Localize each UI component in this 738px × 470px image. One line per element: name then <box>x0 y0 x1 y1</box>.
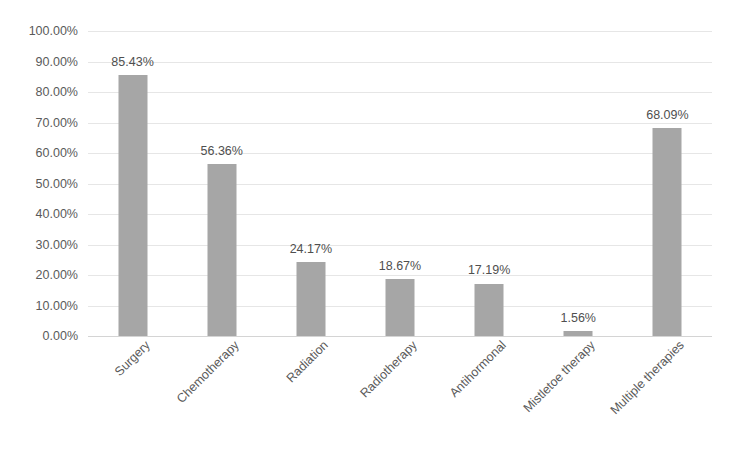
y-axis-tick-label: 0.00% <box>0 329 78 343</box>
x-axis-tick-label: Surgery <box>112 338 153 379</box>
x-axis-tick-label: Radiation <box>283 338 330 385</box>
y-axis-tick-label: 70.00% <box>0 116 78 130</box>
bar[interactable] <box>475 284 504 336</box>
plot-area: 85.43%56.36%24.17%18.67%17.19%1.56%68.09… <box>88 31 712 336</box>
y-axis-tick-label: 10.00% <box>0 299 78 313</box>
bar-group[interactable]: 56.36% <box>177 31 266 336</box>
bar-value-label: 85.43% <box>111 56 153 69</box>
chart-title <box>0 0 738 2</box>
bar-value-label: 56.36% <box>201 145 243 158</box>
x-axis-tick-label: Antihormonal <box>447 338 509 400</box>
x-axis-tick-label: Chemotherapy <box>174 338 242 406</box>
bar-group[interactable]: 24.17% <box>266 31 355 336</box>
bar-group[interactable]: 85.43% <box>88 31 177 336</box>
x-axis-tick-label: Mistletoe therapy <box>521 338 598 415</box>
y-axis-tick-label: 20.00% <box>0 268 78 282</box>
bar[interactable] <box>564 331 593 336</box>
bar-group[interactable]: 1.56% <box>534 31 623 336</box>
y-axis-tick-label: 90.00% <box>0 55 78 69</box>
bar-group[interactable]: 17.19% <box>445 31 534 336</box>
bar[interactable] <box>296 262 325 336</box>
bar[interactable] <box>385 279 414 336</box>
bar-value-label: 1.56% <box>561 312 596 325</box>
bar-value-label: 18.67% <box>379 260 421 273</box>
x-axis-tick-label: Multiple therapies <box>608 338 687 417</box>
bar[interactable] <box>118 75 147 336</box>
bar-value-label: 68.09% <box>646 109 688 122</box>
y-axis-tick-label: 80.00% <box>0 85 78 99</box>
bar-value-label: 24.17% <box>290 243 332 256</box>
gridline <box>88 336 712 337</box>
bar-value-label: 17.19% <box>468 264 510 277</box>
bar-group[interactable]: 18.67% <box>355 31 444 336</box>
bar-group[interactable]: 68.09% <box>623 31 712 336</box>
x-axis: SurgeryChemotherapyRadiationRadiotherapy… <box>88 338 712 466</box>
bar-chart: 0.00%10.00%20.00%30.00%40.00%50.00%60.00… <box>0 0 738 470</box>
y-axis-tick-label: 40.00% <box>0 207 78 221</box>
y-axis-tick-label: 60.00% <box>0 146 78 160</box>
bar[interactable] <box>653 128 682 336</box>
y-axis-tick-label: 30.00% <box>0 238 78 252</box>
bar[interactable] <box>207 164 236 336</box>
x-axis-tick-label: Radiotherapy <box>357 338 419 400</box>
y-axis-tick-label: 50.00% <box>0 177 78 191</box>
y-axis: 0.00%10.00%20.00%30.00%40.00%50.00%60.00… <box>0 31 80 336</box>
y-axis-tick-label: 100.00% <box>0 24 78 38</box>
